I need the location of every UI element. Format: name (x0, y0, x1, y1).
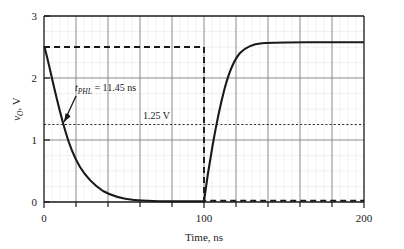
y-tick-label-1: 1 (32, 134, 38, 146)
x-axis-title: Time, ns (185, 231, 223, 243)
tphl-value: = 11.45 ns (92, 82, 136, 93)
chart-figure: 3 2 1 0 0 100 200 Time, ns vO, V tPHL = … (0, 0, 404, 249)
threshold-annotation: 1.25 V (143, 110, 171, 121)
y-tick-label-0: 0 (32, 196, 38, 208)
transient-response-chart: 3 2 1 0 0 100 200 Time, ns vO, V tPHL = … (0, 0, 404, 249)
y-tick-label-3: 3 (32, 10, 38, 22)
x-tick-label-100: 100 (196, 212, 213, 224)
x-tick-label-0: 0 (41, 212, 47, 224)
y-tick-label-2: 2 (32, 72, 38, 84)
tphl-subscript: PHL (77, 87, 92, 96)
x-tick-label-200: 200 (356, 212, 373, 224)
y-axis-title-unit: , V (10, 97, 22, 110)
